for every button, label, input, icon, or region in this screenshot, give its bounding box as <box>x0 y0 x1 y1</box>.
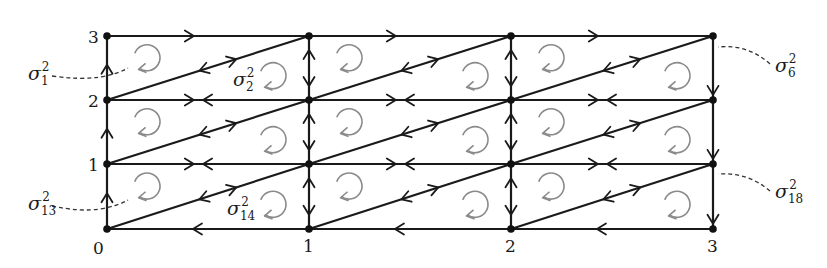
grid-node <box>305 160 313 168</box>
sigma-6-label: σ62 <box>775 52 796 80</box>
grid-node <box>709 225 717 233</box>
dashed-leader-line <box>718 47 770 64</box>
clockwise-circular-arrow-icon <box>463 191 488 219</box>
dashed-leader-line <box>52 68 128 78</box>
x-label-1: 1 <box>303 236 314 256</box>
grid-node <box>709 160 717 168</box>
clockwise-circular-arrow-icon <box>665 191 690 219</box>
sigma-14-label: σ142 <box>227 195 256 223</box>
grid-node <box>507 160 515 168</box>
y-axis-labels: 3 2 1 <box>88 27 99 175</box>
clockwise-circular-arrow-icon <box>261 127 286 155</box>
clockwise-circular-arrow-icon <box>337 173 362 201</box>
sigma-1-label: σ12 <box>28 60 49 88</box>
diagonal-edge <box>511 36 713 100</box>
sigma-13-label: σ132 <box>28 190 56 218</box>
clockwise-circular-arrow-icon <box>539 109 564 137</box>
diagonal-edge <box>107 164 309 229</box>
x-label-2: 2 <box>505 236 516 256</box>
triangulated-grid-diagram: 0 1 2 3 3 2 1 σ12 σ22 σ62 σ132 σ142 σ182 <box>0 0 827 268</box>
grid-node <box>103 96 111 104</box>
clockwise-circular-arrow-icon <box>135 45 160 73</box>
clockwise-circular-arrow-icon <box>135 109 160 137</box>
grid-node <box>305 96 313 104</box>
dashed-leader-line <box>52 200 128 210</box>
clockwise-circular-arrow-icon <box>539 173 564 201</box>
diagonal-edge <box>511 100 713 164</box>
diagonal-edge <box>107 36 309 100</box>
clockwise-circular-arrow-icon <box>463 127 488 155</box>
y-label-1: 1 <box>88 155 99 175</box>
x-label-0: 0 <box>93 238 104 258</box>
clockwise-circular-arrow-icon <box>337 45 362 73</box>
clockwise-circular-arrow-icon <box>135 173 160 201</box>
grid-node <box>507 32 515 40</box>
sigma-18-label: σ182 <box>775 178 803 206</box>
clockwise-circular-arrow-icon <box>261 191 286 219</box>
x-axis-labels: 0 1 2 3 <box>93 236 718 258</box>
clockwise-circular-arrow-icon <box>665 127 690 155</box>
grid-node <box>507 225 515 233</box>
clockwise-circular-arrow-icon <box>337 109 362 137</box>
grid-edges <box>107 36 713 229</box>
clockwise-circular-arrow-icon <box>463 63 488 91</box>
grid-node <box>103 32 111 40</box>
grid-node <box>305 32 313 40</box>
diagonal-edge <box>309 100 511 164</box>
grid-node <box>103 160 111 168</box>
diagonal-edge <box>511 164 713 229</box>
sigma-labels: σ12 σ22 σ62 σ132 σ142 σ182 <box>28 52 803 223</box>
diagonal-edge <box>107 100 309 164</box>
x-label-3: 3 <box>707 236 718 256</box>
dashed-leader-line <box>718 174 770 191</box>
clockwise-circular-arrow-icon <box>539 45 564 73</box>
diagonal-edge <box>309 164 511 229</box>
y-label-3: 3 <box>88 27 99 47</box>
grid-node <box>507 96 515 104</box>
clockwise-circular-arrow-icon <box>261 63 286 91</box>
y-label-2: 2 <box>88 91 99 111</box>
sigma-2-label: σ22 <box>233 66 254 94</box>
grid-node <box>103 225 111 233</box>
grid-node <box>305 225 313 233</box>
grid-node <box>709 96 717 104</box>
diagonal-edge <box>309 36 511 100</box>
clockwise-circular-arrow-icon <box>665 63 690 91</box>
grid-node <box>709 32 717 40</box>
